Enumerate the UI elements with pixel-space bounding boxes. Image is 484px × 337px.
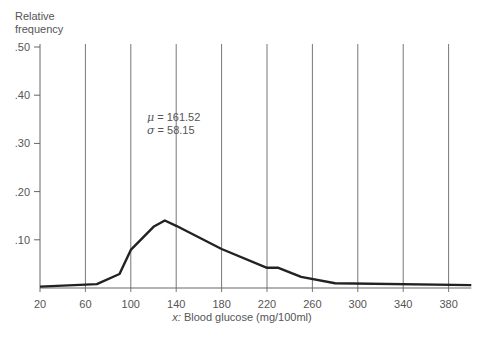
x-tick-label: 100 <box>122 298 140 310</box>
frequency-curve <box>40 221 471 287</box>
mean-label: μ = 161.52 <box>147 111 200 124</box>
y-axis-ticks: .10.20.30.40.50 <box>15 41 40 246</box>
y-tick-label: .10 <box>15 234 30 246</box>
y-tick-label: .50 <box>15 41 30 53</box>
x-tick-label: 220 <box>258 298 276 310</box>
x-tick-label: 340 <box>394 298 412 310</box>
line-chart: .10.20.30.40.50 206010014018022026030034… <box>0 0 484 337</box>
y-tick-label: .30 <box>15 137 30 149</box>
y-tick-label: .20 <box>15 186 30 198</box>
x-tick-label: 380 <box>439 298 457 310</box>
x-axis-label: x: Blood glucose (mg/100ml) <box>0 311 484 323</box>
x-tick-label: 300 <box>349 298 367 310</box>
std-dev-label: σ = 58.15 <box>147 124 200 137</box>
y-tick-label: .40 <box>15 89 30 101</box>
axes <box>40 44 471 292</box>
x-tick-label: 60 <box>79 298 91 310</box>
x-tick-label: 20 <box>34 298 46 310</box>
x-axis-title: Blood glucose (mg/100ml) <box>184 311 312 323</box>
x-axis-ticks: 2060100140180220260300340380 <box>34 298 458 310</box>
x-tick-label: 140 <box>167 298 185 310</box>
x-tick-label: 180 <box>212 298 230 310</box>
distribution-stats: μ = 161.52 σ = 58.15 <box>147 111 200 137</box>
vertical-gridlines <box>85 44 448 292</box>
x-axis-variable: x: <box>172 311 181 323</box>
x-tick-label: 260 <box>303 298 321 310</box>
